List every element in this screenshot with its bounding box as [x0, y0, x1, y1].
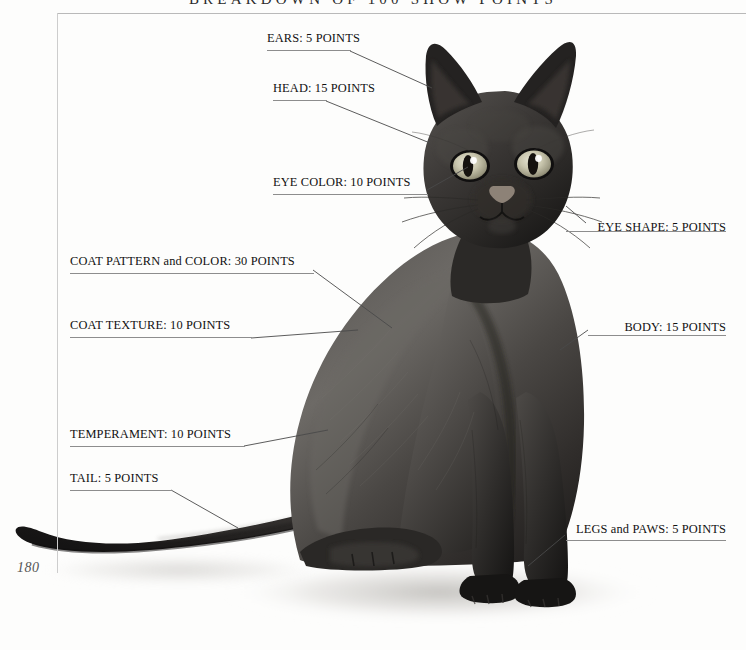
page-title: BREAKDOWN OF 100 SHOW POINTS [0, 0, 746, 8]
callout-underline-coat-pattern [70, 273, 314, 274]
left-margin-rule [57, 13, 58, 573]
callout-label-temperament: TEMPERAMENT: 10 POINTS [70, 427, 231, 442]
callout-underline-ears [267, 50, 351, 51]
callout-label-coat-texture: COAT TEXTURE: 10 POINTS [70, 318, 230, 333]
callout-label-tail: TAIL: 5 POINTS [70, 471, 159, 486]
callout-underline-eye-shape [566, 231, 726, 232]
callout-underline-eye-color [273, 194, 428, 195]
callout-label-eye-shape: EYE SHAPE: 5 POINTS [598, 220, 727, 235]
callout-label-body: BODY: 15 POINTS [624, 320, 726, 335]
callout-underline-coat-texture [70, 337, 252, 338]
callout-underline-legs-paws [566, 540, 726, 541]
callout-label-ears: EARS: 5 POINTS [267, 31, 360, 46]
page-number: 180 [17, 560, 40, 576]
book-page: BREAKDOWN OF 100 SHOW POINTS 180 EARS: 5… [0, 0, 746, 650]
callout-label-head: HEAD: 15 POINTS [273, 81, 375, 96]
callout-underline-body [588, 335, 726, 336]
callout-underline-tail [70, 490, 172, 491]
callout-label-coat-pattern: COAT PATTERN and COLOR: 30 POINTS [70, 254, 295, 269]
callout-label-eye-color: EYE COLOR: 10 POINTS [273, 175, 411, 190]
callout-label-legs-paws: LEGS and PAWS: 5 POINTS [576, 522, 726, 537]
header-rule [57, 13, 746, 14]
callout-underline-head [273, 100, 327, 101]
callout-underline-temperament [70, 446, 245, 447]
